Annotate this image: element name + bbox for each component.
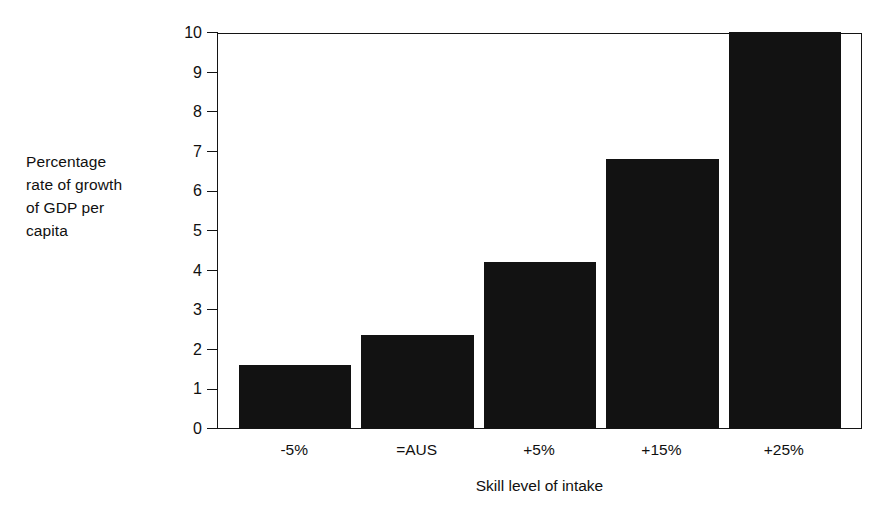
x-axis-tick-label: +15% <box>606 441 716 459</box>
y-axis-title-line-4: capita <box>26 219 186 242</box>
y-axis-tick-label: 5 <box>178 223 202 239</box>
y-axis-title-line-2: rate of growth <box>26 173 186 196</box>
x-axis-tick-label: +5% <box>484 441 594 459</box>
bar <box>484 262 596 428</box>
y-axis-tick-label: 4 <box>178 263 202 279</box>
y-axis-tick-label: 0 <box>178 421 202 437</box>
bar <box>239 365 351 428</box>
x-axis-title: Skill level of intake <box>217 477 862 495</box>
bar-chart-figure: Percentage rate of growth of GDP per cap… <box>0 0 893 522</box>
y-axis-title: Percentage rate of growth of GDP per cap… <box>26 150 186 242</box>
bar <box>606 159 718 428</box>
x-axis-tick-label: +25% <box>729 441 839 459</box>
plot-area <box>217 33 862 429</box>
y-axis-tick-label: 2 <box>178 342 202 358</box>
bar <box>729 32 841 428</box>
bar <box>361 335 473 428</box>
y-axis-tick-label: 9 <box>178 65 202 81</box>
y-axis-title-line-1: Percentage <box>26 150 186 173</box>
y-axis-tick-label: 3 <box>178 302 202 318</box>
y-axis-title-line-3: of GDP per <box>26 196 186 219</box>
y-axis-tick-label: 7 <box>178 144 202 160</box>
y-axis-tick-label: 1 <box>178 381 202 397</box>
x-axis-tick-label: =AUS <box>362 441 472 459</box>
y-axis-tick-label: 10 <box>178 25 202 41</box>
x-axis-tick-label: -5% <box>239 441 349 459</box>
y-axis-tick-label: 8 <box>178 104 202 120</box>
bars-layer <box>218 34 861 428</box>
y-axis-tick-label: 6 <box>178 183 202 199</box>
